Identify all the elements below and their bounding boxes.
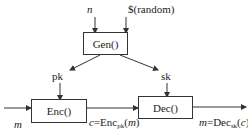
dec-label: Dec() — [153, 102, 178, 114]
enc-label: Enc() — [47, 105, 71, 117]
gen-box: Gen() — [83, 32, 128, 55]
message-out-label: m=Decsk(c) — [199, 116, 248, 132]
sk-label: sk — [161, 70, 171, 82]
enc-box: Enc() — [31, 99, 87, 123]
gen-label: Gen() — [93, 38, 119, 50]
input-random-label: $(random) — [128, 3, 174, 15]
dec-box: Dec() — [138, 96, 193, 119]
pk-label: pk — [52, 70, 63, 82]
ciphertext-label: c=Encpk(m) — [89, 116, 140, 132]
input-n-label: n — [87, 3, 93, 15]
message-in-label: m — [14, 118, 22, 130]
